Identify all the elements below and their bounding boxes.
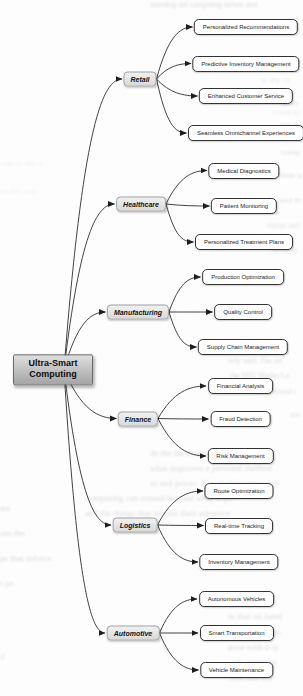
branch-node-logistics: Logistics [113,518,158,533]
leaf-label: Financial Analysis [217,383,265,389]
leaf-label: Fraud Detection [219,416,262,422]
leaf-node: Autonomous Vehicles [199,591,275,607]
leaf-node: Real-time Tracking [205,518,273,534]
root-label: Ultra-Smart Computing [28,358,77,380]
leaf-node: Predictive Inventory Management [192,56,299,72]
leaf-node: Seamless Omnichannel Experiences [188,125,303,141]
node-layer: Ultra-Smart Computing RetailPersonalized… [0,0,303,696]
leaf-node: Risk Management [207,448,273,464]
leaf-label: Patient Monitoring [220,203,268,209]
leaf-label: Personalized Recommendations [203,24,289,30]
branch-label: Manufacturing [114,309,162,316]
leaf-label: Enhanced Customer Service [208,93,284,99]
leaf-node: Enhanced Customer Service [199,88,293,104]
branch-label: Retail [130,76,149,83]
leaf-node: Personalized Treatment Plans [195,234,293,250]
branch-label: Healthcare [123,201,159,208]
branch-node-retail: Retail [123,72,156,87]
leaf-node: Medical Diagnostics [208,163,279,179]
leaf-node: Patient Monitoring [211,198,277,214]
leaf-label: Autonomous Vehicles [208,596,266,602]
leaf-node: Personalized Recommendations [194,19,298,35]
leaf-node: Supply Chain Management [198,339,288,355]
leaf-label: Supply Chain Management [207,344,279,350]
leaf-node: Financial Analysis [208,378,274,394]
leaf-node: Vehicle Maintenance [200,662,273,678]
mindmap-canvas: standing set computing before andthe sin… [0,0,303,696]
leaf-label: Quality Control [223,309,263,315]
leaf-label: Production Optimization [211,274,275,280]
leaf-label: Smart Transportation [208,630,264,636]
leaf-label: Medical Diagnostics [217,168,270,174]
leaf-node: Inventory Management [199,554,278,570]
leaf-node: Quality Control [214,304,272,320]
leaf-label: Route Optimization [213,488,264,494]
leaf-label: Risk Management [216,453,264,459]
branch-node-finance: Finance [118,411,158,426]
branch-node-healthcare: Healthcare [116,197,166,212]
branch-label: Finance [125,415,151,422]
leaf-label: Personalized Treatment Plans [204,239,284,245]
leaf-node: Production Optimization [202,269,284,285]
branch-node-automotive: Automotive [107,626,160,641]
leaf-label: Predictive Inventory Management [201,61,290,67]
leaf-node: Route Optimization [204,483,273,499]
branch-label: Logistics [120,522,151,529]
branch-node-manufacturing: Manufacturing [107,305,169,320]
leaf-label: Seamless Omnichannel Experiences [197,130,295,136]
branch-label: Automotive [114,630,153,637]
leaf-label: Vehicle Maintenance [209,667,264,673]
root-node: Ultra-Smart Computing [13,354,93,385]
leaf-node: Fraud Detection [210,411,271,427]
leaf-label: Real-time Tracking [214,523,264,529]
leaf-node: Smart Transportation [199,625,273,641]
leaf-label: Inventory Management [208,559,269,565]
